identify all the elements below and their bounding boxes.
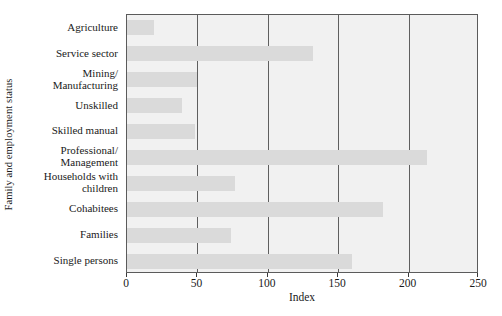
gridline-150 bbox=[338, 15, 339, 272]
x-tick-label-50: 50 bbox=[191, 277, 203, 289]
bar bbox=[127, 254, 352, 269]
x-axis-ticks: 050100150200250 bbox=[126, 273, 478, 291]
x-tick-label-0: 0 bbox=[123, 277, 129, 289]
category-label: Professional/ Management bbox=[61, 144, 118, 168]
bar-chart-figure: Family and employment status Agriculture… bbox=[0, 0, 502, 316]
category-label: Unskilled bbox=[75, 99, 118, 111]
bar bbox=[127, 72, 197, 87]
x-tick-label-200: 200 bbox=[399, 277, 416, 289]
bar bbox=[127, 46, 313, 61]
category-label: Families bbox=[80, 228, 118, 240]
category-label: Cohabitees bbox=[69, 202, 118, 214]
x-axis-title: Index bbox=[126, 291, 478, 303]
category-label: Single persons bbox=[54, 254, 118, 266]
category-tick-labels: AgricultureService sectorMining/ Manufac… bbox=[16, 14, 122, 273]
category-label: Households with children bbox=[44, 170, 118, 194]
x-tick-label-100: 100 bbox=[258, 277, 275, 289]
plot-area bbox=[126, 14, 478, 273]
x-tick-label-250: 250 bbox=[469, 277, 486, 289]
bar bbox=[127, 150, 427, 165]
category-label: Skilled manual bbox=[52, 124, 118, 136]
gridline-200 bbox=[409, 15, 410, 272]
bar bbox=[127, 176, 235, 191]
bar bbox=[127, 228, 231, 243]
category-label: Mining/ Manufacturing bbox=[53, 67, 118, 91]
bar bbox=[127, 124, 195, 139]
bar bbox=[127, 20, 154, 35]
x-tick-label-150: 150 bbox=[329, 277, 346, 289]
y-axis-title: Family and employment status bbox=[0, 0, 16, 288]
category-label: Agriculture bbox=[67, 21, 118, 33]
bar bbox=[127, 202, 383, 217]
category-label: Service sector bbox=[56, 47, 118, 59]
y-axis-title-text: Family and employment status bbox=[3, 78, 14, 210]
bar bbox=[127, 98, 182, 113]
